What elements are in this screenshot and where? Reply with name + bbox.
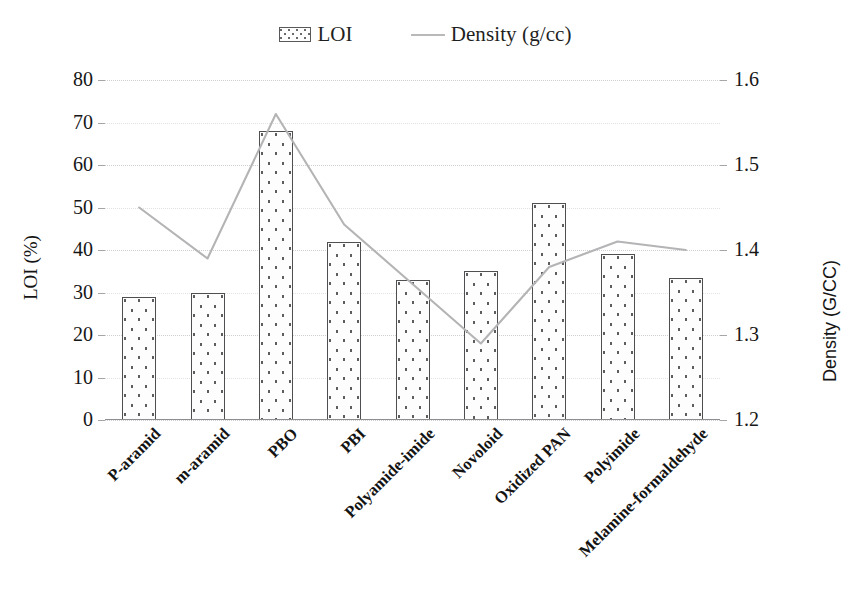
x-axis-label-p-aramid: P-aramid bbox=[151, 424, 165, 438]
y-axis-left-tick-label: 20 bbox=[73, 324, 93, 344]
y-axis-left-title: LOI (%) bbox=[20, 235, 42, 300]
x-axis-label-novoloid: Novoloid bbox=[493, 424, 507, 438]
legend-item-density[interactable]: Density (g/cc) bbox=[411, 22, 572, 47]
y-axis-left-tick-mark bbox=[98, 208, 105, 209]
x-axis-line bbox=[105, 419, 720, 420]
legend-label-density: Density (g/cc) bbox=[451, 22, 572, 47]
y-axis-right-tick-mark bbox=[720, 165, 727, 166]
y-axis-right-tick-label: 1.4 bbox=[734, 239, 759, 259]
y-axis-right-tick-label: 1.5 bbox=[734, 154, 759, 174]
line-series-density bbox=[105, 80, 720, 420]
y-axis-left-tick-mark bbox=[98, 420, 105, 421]
x-axis-label-polyimide: Polyimide bbox=[630, 424, 644, 438]
y-axis-left-tick-label: 50 bbox=[73, 197, 93, 217]
y-axis-right-tick-mark bbox=[720, 80, 727, 81]
y-axis-left-tick-label: 30 bbox=[73, 282, 93, 302]
y-axis-left-tick-label: 60 bbox=[73, 154, 93, 174]
y-axis-left-tick-mark bbox=[98, 250, 105, 251]
x-axis-label-m-aramid: m-aramid bbox=[220, 424, 234, 438]
chart-figure: LOI Density (g/cc) LOI (%) Density (G/CC… bbox=[0, 0, 851, 597]
y-axis-right-tick-mark bbox=[720, 250, 727, 251]
legend-item-loi[interactable]: LOI bbox=[279, 22, 352, 47]
x-axis-label-melamine-formaldehyde: Melamine-formaldehyde bbox=[698, 424, 712, 438]
y-axis-right-tick-label: 1.6 bbox=[734, 69, 759, 89]
y-axis-right-tick-label: 1.3 bbox=[734, 324, 759, 344]
y-axis-left-tick-mark bbox=[98, 335, 105, 336]
plot-area: 01020304050607080 1.21.31.41.51.6 bbox=[105, 80, 720, 420]
chart-legend: LOI Density (g/cc) bbox=[0, 22, 851, 47]
line-swatch-icon bbox=[411, 34, 445, 36]
y-axis-left-tick-mark bbox=[98, 293, 105, 294]
legend-label-loi: LOI bbox=[317, 22, 352, 47]
y-axis-left-tick-label: 70 bbox=[73, 112, 93, 132]
density-polyline bbox=[139, 114, 686, 344]
x-axis-category-labels: P-aramidm-aramidPBOPBIPolyamide-imideNov… bbox=[105, 424, 720, 594]
x-axis-label-pbo: PBO bbox=[288, 424, 302, 438]
y-axis-right-title: Density (G/CC) bbox=[820, 260, 841, 382]
y-axis-left-tick-mark bbox=[98, 123, 105, 124]
x-axis-label-oxidized-pan: Oxidized PAN bbox=[561, 424, 575, 438]
x-axis-label-pbi: PBI bbox=[356, 424, 370, 438]
y-axis-left-tick-mark bbox=[98, 165, 105, 166]
y-axis-left-tick-mark bbox=[98, 80, 105, 81]
y-axis-right-tick-mark bbox=[720, 420, 727, 421]
x-axis-label-polyamide-imide: Polyamide-imide bbox=[425, 424, 439, 438]
bar-swatch-icon bbox=[279, 27, 311, 42]
y-axis-left-tick-label: 40 bbox=[73, 239, 93, 259]
y-axis-left-tick-label: 10 bbox=[73, 367, 93, 387]
y-axis-left-tick-label: 0 bbox=[83, 409, 93, 429]
gridline-major bbox=[105, 420, 720, 421]
y-axis-left-tick-label: 80 bbox=[73, 69, 93, 89]
y-axis-right-tick-label: 1.2 bbox=[734, 409, 759, 429]
y-axis-right-tick-mark bbox=[720, 335, 727, 336]
y-axis-left-tick-mark bbox=[98, 378, 105, 379]
